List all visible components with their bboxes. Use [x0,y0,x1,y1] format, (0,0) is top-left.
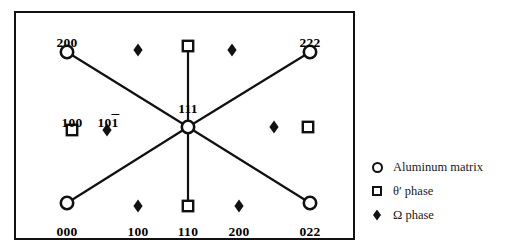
legend-square-icon [367,186,387,196]
spot-index-label: 222 [299,36,320,50]
legend-square-icon-glyph [372,186,382,196]
spot-index-label: 101 [97,116,118,130]
omega-spot-marker [227,43,236,56]
legend-diamond-icon-glyph [373,210,381,221]
diagram-frame: 200222111000022100110101100200 [14,11,355,240]
connector-line [67,52,188,127]
legend-item-label: Ω phase [393,208,434,223]
theta-prime-spot-marker [183,201,193,211]
theta-prime-spot-marker [303,122,313,132]
omega-spot-marker [133,199,142,212]
legend-item: Aluminum matrix [367,155,509,179]
legend-circle-icon-glyph [372,162,383,173]
omega-spot-marker [269,120,278,133]
legend-item: Ω phase [367,203,509,227]
connector-line [188,52,310,127]
matrix-spot-marker [61,197,73,209]
connector-line [67,127,188,203]
spot-index-label: 100 [61,116,82,130]
legend-circle-icon [367,162,387,173]
legend-item-label: θ′ phase [393,184,433,199]
matrix-spot-marker [304,197,316,209]
legend: Aluminum matrixθ′ phaseΩ phase [367,155,509,227]
theta-prime-spot-marker [183,41,193,51]
matrix-spot-marker [182,121,194,133]
spot-index-label: 200 [228,225,249,239]
omega-spot-marker [234,199,243,212]
figure-root: 200222111000022100110101100200 Aluminum … [0,0,513,251]
spot-index-label: 000 [56,225,77,239]
legend-item: θ′ phase [367,179,509,203]
spot-index-label: 200 [56,36,77,50]
spot-index-label: 110 [178,225,198,239]
spot-index-label: 111 [178,102,198,116]
spot-index-label: 022 [299,225,320,239]
legend-diamond-icon [367,210,387,221]
legend-item-label: Aluminum matrix [393,160,483,175]
connector-line [188,127,310,203]
omega-spot-marker [133,43,142,56]
spot-index-label: 100 [127,225,148,239]
